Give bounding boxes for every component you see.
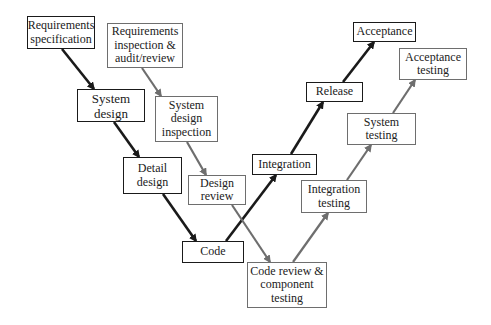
node-acceptance: Acceptance [353,22,416,42]
node-system-design-inspection: System design inspection [155,96,218,142]
arrow-integration-testing-to-system-testing [347,145,371,180]
arrow-code-review-to-integration-testing [293,213,328,262]
node-acceptance-testing: Acceptance testing [399,48,467,80]
arrow-release-to-acceptance [343,42,374,82]
node-code: Code [182,241,244,263]
node-detail-design: Detail design [123,157,182,194]
node-code-review-component-testing: Code review & component testing [247,262,327,308]
arrow-system-design-to-detail-design [114,122,139,157]
arrow-integration-to-release [291,102,323,154]
node-requirements-specification: Requirements specification [27,16,95,49]
node-requirements-inspection: Requirements inspection & audit/review [107,23,183,68]
node-integration: Integration [252,154,317,175]
node-design-review: Design review [188,175,246,205]
arrow-req-spec-to-system-design [62,49,94,89]
node-integration-testing: Integration testing [301,180,367,213]
v-model-diagram: Requirements specification Requirements … [0,0,491,325]
arrow-sys-design-insp-to-design-review [187,142,206,175]
node-system-design: System design [77,89,145,122]
node-system-testing: System testing [347,113,416,145]
arrow-system-testing-to-acceptance-testing [393,80,415,113]
node-release: Release [306,82,363,102]
